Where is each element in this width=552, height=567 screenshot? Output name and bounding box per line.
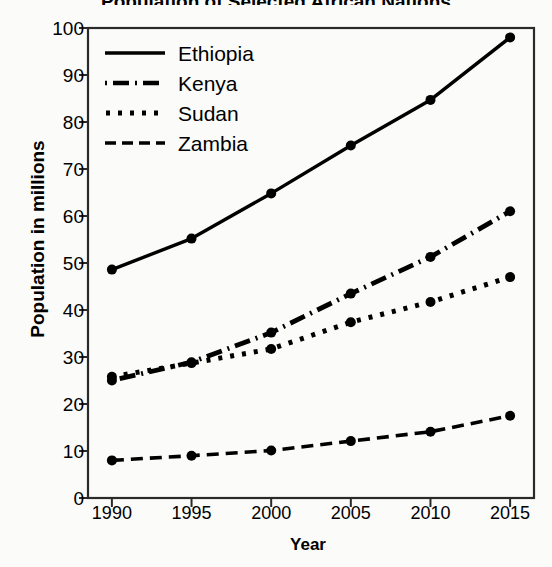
legend-label-kenya: Kenya [178,73,238,94]
y-axis-tick-label: 90 [22,66,84,85]
legend-item-ethiopia: Ethiopia [104,38,344,68]
line-chart: Population of Selected African Nations P… [0,0,552,567]
y-axis-tick-label: 0 [22,489,84,508]
legend-item-zambia: Zambia [104,128,344,158]
series-line-sudan [112,277,510,377]
data-point-zambia [346,436,356,446]
y-axis-tick-label: 40 [22,301,84,320]
data-point-ethiopia [346,141,356,151]
y-axis-tick-label: 10 [22,442,84,461]
data-point-ethiopia [107,265,117,275]
x-axis-tick-label: 1990 [77,503,147,524]
data-point-sudan [346,317,356,327]
y-axis-tick-label: 80 [22,113,84,132]
legend-label-ethiopia: Ethiopia [178,43,254,64]
data-point-kenya [346,289,356,299]
data-point-ethiopia [266,188,276,198]
x-axis-tick-label: 1995 [157,503,227,524]
x-axis-tick-label: 2000 [236,503,306,524]
data-point-ethiopia [426,95,436,105]
data-point-sudan [505,272,515,282]
data-point-sudan [187,358,197,368]
x-axis-tick-label: 2010 [395,503,465,524]
x-axis-tick-label: 2005 [316,503,386,524]
data-point-ethiopia [505,32,515,42]
data-point-zambia [107,455,117,465]
y-axis-tick-label: 50 [22,254,84,273]
legend-label-sudan: Sudan [178,103,239,124]
legend-swatch-dashed [104,136,166,150]
y-axis-tick-label: 60 [22,207,84,226]
legend-swatch-dashdot [104,76,166,90]
data-point-kenya [505,206,515,216]
data-point-zambia [505,411,515,421]
data-point-zambia [426,427,436,437]
y-axis-tick-labels: 0102030405060708090100 [18,0,84,567]
legend-swatch-dotted [104,106,166,120]
y-axis-tick-label: 20 [22,395,84,414]
legend-item-sudan: Sudan [104,98,344,128]
data-point-sudan [107,372,117,382]
data-point-sudan [426,297,436,307]
legend-label-zambia: Zambia [178,133,248,154]
y-axis-tick-label: 70 [22,160,84,179]
x-axis-label: Year [88,535,528,555]
legend-swatch-solid [104,46,166,60]
x-axis-tick-label: 2015 [475,503,545,524]
data-point-zambia [266,446,276,456]
data-point-kenya [266,328,276,338]
legend-item-kenya: Kenya [104,68,344,98]
series-line-zambia [112,416,510,461]
y-axis-tick-label: 100 [22,19,84,38]
data-point-ethiopia [187,234,197,244]
chart-legend: Ethiopia Kenya Sudan Zambia [104,38,344,158]
data-point-kenya [426,252,436,262]
y-axis-tick-label: 30 [22,348,84,367]
data-point-zambia [187,451,197,461]
data-point-sudan [266,344,276,354]
